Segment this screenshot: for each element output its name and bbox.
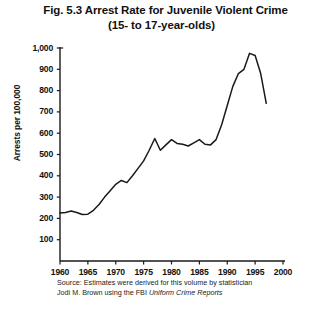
source-note-line-2: Jodi M. Brown using the FBI Uniform Crim…	[57, 288, 307, 298]
source-note-line-1: Source: Estimates were derived for this …	[57, 278, 307, 288]
x-tick-label: 1965	[73, 267, 103, 277]
y-tick-label: 500	[23, 149, 53, 159]
y-tick-label: 600	[23, 128, 53, 138]
y-tick-label: 900	[23, 64, 53, 74]
y-tick-label: 1,000	[23, 43, 53, 53]
y-tick-label: 200	[23, 213, 53, 223]
data-series-line	[60, 53, 266, 214]
y-tick-label: 400	[23, 170, 53, 180]
x-tick-label: 1980	[157, 267, 187, 277]
y-tick-label: 800	[23, 85, 53, 95]
x-tick-label: 1975	[129, 267, 159, 277]
axes-group	[60, 47, 285, 261]
x-tick-label: 1995	[240, 267, 270, 277]
x-tick-label: 2000	[268, 267, 298, 277]
y-tick-label: 300	[23, 192, 53, 202]
source-note: Source: Estimates were derived for this …	[57, 278, 307, 298]
y-tick-label: 100	[23, 234, 53, 244]
x-tick-label: 1985	[184, 267, 214, 277]
x-tick-label: 1990	[212, 267, 242, 277]
source-note-prefix: Jodi M. Brown using the FBI	[57, 288, 149, 297]
figure-container: Fig. 5.3 Arrest Rate for Juvenile Violen…	[0, 0, 317, 310]
tick-marks-group	[57, 48, 283, 264]
x-tick-label: 1960	[45, 267, 75, 277]
x-tick-label: 1970	[101, 267, 131, 277]
source-note-publication: Uniform Crime Reports	[149, 288, 223, 297]
y-tick-label: 700	[23, 106, 53, 116]
